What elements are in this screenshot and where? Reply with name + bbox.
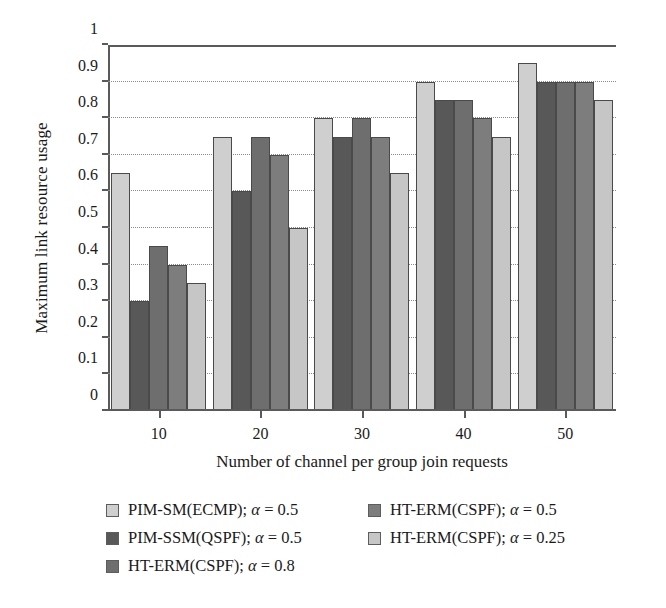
bar [454,100,473,411]
x-axis-tick-label: 10 [151,425,167,443]
legend-label: HT-ERM(CSPF); α = 0.8 [128,558,295,575]
legend-item[interactable]: HT-ERM(CSPF); α = 0.8 [106,552,302,580]
legend-item[interactable]: HT-ERM(CSPF); α = 0.5 [368,496,565,524]
bar [270,155,289,411]
legend-item[interactable]: PIM-SSM(QSPF); α = 0.5 [106,524,302,552]
bar-group: 20 [210,45,312,411]
bar [111,173,130,411]
bar [314,118,333,411]
bar [168,265,187,411]
bar [594,100,613,411]
bar [333,137,352,412]
figure: Maximum link resource usage 00.10.20.30.… [0,0,666,608]
legend-swatch-icon [368,532,381,545]
legend-label: HT-ERM(CSPF); α = 0.5 [390,502,557,519]
bar-group: 50 [514,45,616,411]
legend-swatch-icon [368,504,381,517]
bar [390,173,409,411]
legend-column-left: PIM-SM(ECMP); α = 0.5PIM-SSM(QSPF); α = … [106,496,302,580]
bar [251,137,270,412]
legend-swatch-icon [106,532,119,545]
x-axis-tick-label: 30 [354,425,370,443]
x-axis-line [108,409,616,411]
legend-label: HT-ERM(CSPF); α = 0.25 [390,530,565,547]
bar [149,246,168,411]
bar-group: 40 [413,45,515,411]
legend-item[interactable]: HT-ERM(CSPF); α = 0.25 [368,524,565,552]
bar [213,137,232,412]
legend-label: PIM-SSM(QSPF); α = 0.5 [128,530,302,547]
bar-group: 30 [311,45,413,411]
bar [556,82,575,411]
x-axis-title: Number of channel per group join request… [108,452,616,472]
y-axis-tick-label: 0.4 [50,241,98,257]
bar [130,301,149,411]
x-axis-tick-mark [260,411,262,418]
bar [371,137,390,412]
bar-groups: 1020304050 [108,45,616,411]
bar [537,82,556,411]
y-axis-tick-label: 0 [50,387,98,403]
bar [575,82,594,411]
plot-inner: 00.10.20.30.40.50.60.70.80.91 1020304050 [108,45,616,411]
y-axis-tick-label: 0.9 [50,58,98,74]
bar [289,228,308,411]
plot-area: 00.10.20.30.40.50.60.70.80.91 1020304050 [108,45,616,411]
x-axis-tick-label: 20 [252,425,268,443]
legend-swatch-icon [106,504,119,517]
y-axis-tick-label: 0.1 [50,350,98,366]
y-axis-tick-label: 0.3 [50,277,98,293]
bar [232,191,251,411]
y-axis-tick-label: 0.7 [50,131,98,147]
legend-item[interactable]: PIM-SM(ECMP); α = 0.5 [106,496,302,524]
y-axis-tick-label: 0.8 [50,94,98,110]
legend-label: PIM-SM(ECMP); α = 0.5 [128,502,298,519]
x-axis-tick-label: 40 [456,425,472,443]
bar [187,283,206,411]
bar [352,118,371,411]
y-axis-tick-label: 1 [50,21,98,37]
bar [416,82,435,411]
y-axis-title: Maximum link resource usage [32,38,52,418]
bar [518,63,537,411]
y-axis-tick-label: 0.6 [50,167,98,183]
x-axis-tick-mark [565,411,567,418]
bar-group: 10 [108,45,210,411]
x-axis-tick-mark [159,411,161,418]
bar [473,118,492,411]
y-axis-tick-label: 0.2 [50,314,98,330]
x-axis-tick-mark [464,411,466,418]
bar [435,100,454,411]
legend-column-right: HT-ERM(CSPF); α = 0.5HT-ERM(CSPF); α = 0… [368,496,565,552]
y-axis-tick-label: 0.5 [50,204,98,220]
x-axis-tick-label: 50 [557,425,573,443]
bar [492,137,511,412]
x-axis-tick-mark [362,411,364,418]
legend-swatch-icon [106,560,119,573]
